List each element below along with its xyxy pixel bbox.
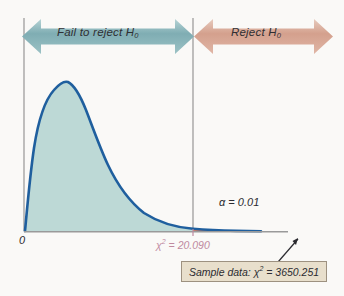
reject-label: Reject H0: [231, 27, 281, 40]
origin-tick-label: 0: [19, 235, 25, 246]
alpha-annotation: α = 0.01: [219, 197, 259, 208]
sample-value: 3650.251: [275, 266, 319, 278]
sample-data-text: Sample data: χ2 = 3650.251: [189, 265, 319, 278]
sample-data-callout-box: Sample data: χ2 = 3650.251: [181, 261, 327, 282]
sample-data-prefix: Sample data:: [189, 266, 251, 278]
reject-label-text: Reject H: [231, 26, 277, 38]
chi-exponent: 2: [162, 238, 166, 245]
callout-arrow-icon: [278, 238, 298, 262]
alpha-value: 0.01: [238, 196, 259, 208]
sample-chi-exponent: 2: [259, 265, 263, 272]
reject-label-subscript: 0: [277, 31, 281, 40]
fail-to-reject-label-text: Fail to reject H: [57, 26, 134, 38]
crit-equals: =: [169, 239, 175, 251]
critical-value-label: χ2 = 20.090: [156, 238, 210, 251]
distribution-fill-area: [25, 82, 193, 231]
chi-square-hypothesis-test-figure: Fail to reject H0 Reject H0 α = 0.01 0 χ…: [0, 0, 344, 296]
fail-to-reject-label: Fail to reject H0: [57, 27, 139, 40]
crit-value: 20.090: [178, 239, 210, 251]
distribution-plot: [0, 0, 344, 296]
alpha-equals: =: [228, 196, 234, 208]
alpha-symbol: α: [219, 196, 225, 208]
fail-to-reject-label-subscript: 0: [134, 31, 138, 40]
sample-equals: =: [266, 266, 272, 278]
